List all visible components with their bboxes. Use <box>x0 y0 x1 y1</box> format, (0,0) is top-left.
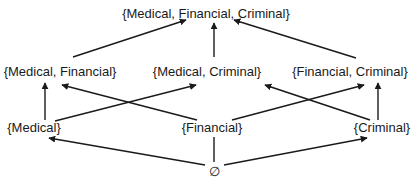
node-financial-criminal: {Financial, Criminal} <box>292 64 408 79</box>
edge-med-to-med-crim <box>55 85 196 121</box>
lattice-diagram: {Medical, Financial, Criminal} {Medical,… <box>0 0 415 188</box>
node-medical-criminal: {Medical, Criminal} <box>153 64 261 79</box>
edge-empty-to-med <box>49 138 205 165</box>
node-empty-set: ∅ <box>209 164 220 179</box>
edge-fin-crim-to-top <box>234 20 356 58</box>
edge-crim-to-med-crim <box>265 85 370 120</box>
node-medical: {Medical} <box>7 120 60 135</box>
edge-med-fin-to-top <box>73 20 186 57</box>
edges-layer <box>0 0 415 188</box>
node-financial: {Financial} <box>182 120 243 135</box>
edge-empty-to-crim <box>224 138 367 165</box>
edge-fin-to-fin-crim <box>232 85 364 120</box>
node-medical-financial: {Medical, Financial} <box>4 64 117 79</box>
node-criminal: {Criminal} <box>354 120 410 135</box>
node-medical-financial-criminal: {Medical, Financial, Criminal} <box>122 6 290 21</box>
